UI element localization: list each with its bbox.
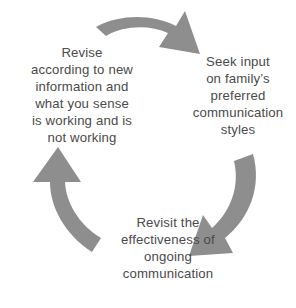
step-line: Seek input bbox=[183, 53, 293, 70]
step-line: Revisit the bbox=[106, 214, 230, 231]
left-arrow-icon bbox=[33, 147, 101, 252]
step-line: on family’s bbox=[183, 70, 293, 87]
step-line: effectiveness of bbox=[106, 231, 230, 248]
cycle-step-revisit: Revisit the effectiveness of ongoing com… bbox=[106, 214, 230, 282]
step-line: information and bbox=[13, 78, 151, 95]
step-line: communication bbox=[183, 104, 293, 121]
step-line: what you sense bbox=[13, 95, 151, 112]
step-line: styles bbox=[183, 121, 293, 138]
cycle-diagram: Seek input on family’s preferred communi… bbox=[0, 0, 296, 308]
step-line: not working bbox=[13, 129, 151, 146]
cycle-step-seek-input: Seek input on family’s preferred communi… bbox=[183, 53, 293, 138]
step-line: communication bbox=[106, 265, 230, 282]
step-line: Revise bbox=[13, 44, 151, 61]
step-line: according to new bbox=[13, 61, 151, 78]
step-line: ongoing bbox=[106, 248, 230, 265]
cycle-step-revise: Revise according to new information and … bbox=[13, 44, 151, 146]
step-line: is working and is bbox=[13, 112, 151, 129]
step-line: preferred bbox=[183, 87, 293, 104]
